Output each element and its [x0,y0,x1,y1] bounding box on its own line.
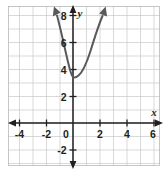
x-axis-label: x [150,106,157,118]
graph-figure: -4 -2 0 2 4 6 8 6 4 2 -2 y x [0,0,164,170]
y-tick-label-6: 6 [61,37,67,49]
y-tick-label-4: 4 [61,64,67,76]
x-tick-label-2: 2 [97,128,103,140]
coordinate-plane-chart: -4 -2 0 2 4 6 8 6 4 2 -2 y x [0,0,164,170]
x-tick-label-6: 6 [150,128,156,140]
plot-background [8,6,160,166]
y-tick-label-minus2: -2 [57,144,66,156]
x-tick-label-4: 4 [124,128,130,140]
x-tick-label-minus4: -4 [15,128,24,140]
y-tick-label-8: 8 [61,10,67,22]
x-tick-label-minus2: -2 [42,128,51,140]
origin-label: 0 [63,128,69,140]
y-tick-label-2: 2 [61,91,67,103]
y-axis-label: y [76,7,83,19]
